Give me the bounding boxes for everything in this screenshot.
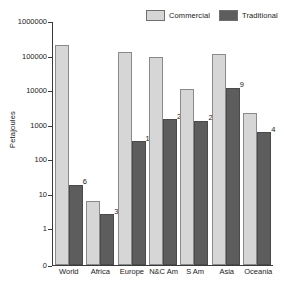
chart-legend: Commercial Traditional: [146, 10, 278, 21]
bar-traditional-africa: 35: [100, 214, 114, 265]
bar-traditional-oceania: 4: [257, 132, 271, 265]
y-tick-label: 10: [39, 191, 47, 199]
y-tick-mark: [48, 195, 52, 196]
bar-group: 2: [147, 22, 178, 265]
y-tick-label: 0: [43, 262, 47, 270]
bar-traditional-europe: 1: [132, 141, 146, 265]
bar-commercial-europe: [118, 52, 132, 265]
x-axis-labels: WorldAfricaEuropeN&C AmS AmAsiaOceania: [53, 268, 274, 276]
bar-commercial-oceania: [243, 113, 257, 265]
bar-group: 35: [84, 22, 115, 265]
x-axis-label: Asia: [211, 268, 243, 276]
y-tick-mark: [48, 160, 52, 161]
legend-swatch-commercial: [146, 10, 165, 21]
bar-group: 6: [53, 22, 84, 265]
legend-swatch-traditional: [219, 10, 238, 21]
y-tick-label: 1: [43, 225, 47, 233]
x-axis-label: World: [53, 268, 85, 276]
bar-commercial-world: [55, 45, 69, 265]
bar-commercial-s-am: [180, 89, 194, 265]
legend-label-traditional: Traditional: [242, 12, 278, 20]
x-axis-label: Africa: [85, 268, 117, 276]
bar-traditional-n-c-am: 2: [163, 119, 177, 265]
y-tick-label: 1000: [30, 122, 47, 130]
legend-item-traditional: Traditional: [219, 10, 278, 21]
y-tick-label: 100: [34, 156, 47, 164]
plot-area: 10000001000001000010001001010 635122194: [52, 22, 273, 266]
x-axis-label: Europe: [116, 268, 148, 276]
y-tick-mark: [48, 91, 52, 92]
y-tick-mark: [48, 22, 52, 23]
bar-group: 21: [179, 22, 210, 265]
x-axis-label: S Am: [179, 268, 211, 276]
x-axis-label: N&C Am: [148, 268, 180, 276]
x-axis-line: [52, 265, 273, 266]
y-tick-mark: [48, 126, 52, 127]
bar-groups: 635122194: [53, 22, 273, 265]
bar-commercial-asia: [212, 54, 226, 265]
y-axis-title: Petajoules: [8, 111, 17, 148]
y-tick-mark: [48, 266, 52, 267]
y-tick-mark: [48, 57, 52, 58]
legend-item-commercial: Commercial: [146, 10, 210, 21]
y-tick-label: 100000: [22, 53, 47, 61]
y-tick-label: 1000000: [18, 18, 47, 26]
bar-traditional-asia: 9: [226, 88, 240, 265]
x-axis-label: Oceania: [242, 268, 274, 276]
bar-group: 1: [116, 22, 147, 265]
bar-group: 4: [242, 22, 273, 265]
bar-traditional-s-am: 21: [194, 121, 208, 265]
bar-traditional-world: 6: [69, 185, 83, 265]
bar-commercial-africa: [86, 201, 100, 265]
y-tick-label: 10000: [26, 87, 47, 95]
bar-group: 9: [210, 22, 241, 265]
y-tick-mark: [48, 229, 52, 230]
legend-label-commercial: Commercial: [169, 12, 210, 20]
bar-chart: Commercial Traditional Petajoules 100000…: [0, 0, 284, 288]
bar-commercial-n-c-am: [149, 57, 163, 265]
bar-value-label: 4: [271, 126, 275, 134]
